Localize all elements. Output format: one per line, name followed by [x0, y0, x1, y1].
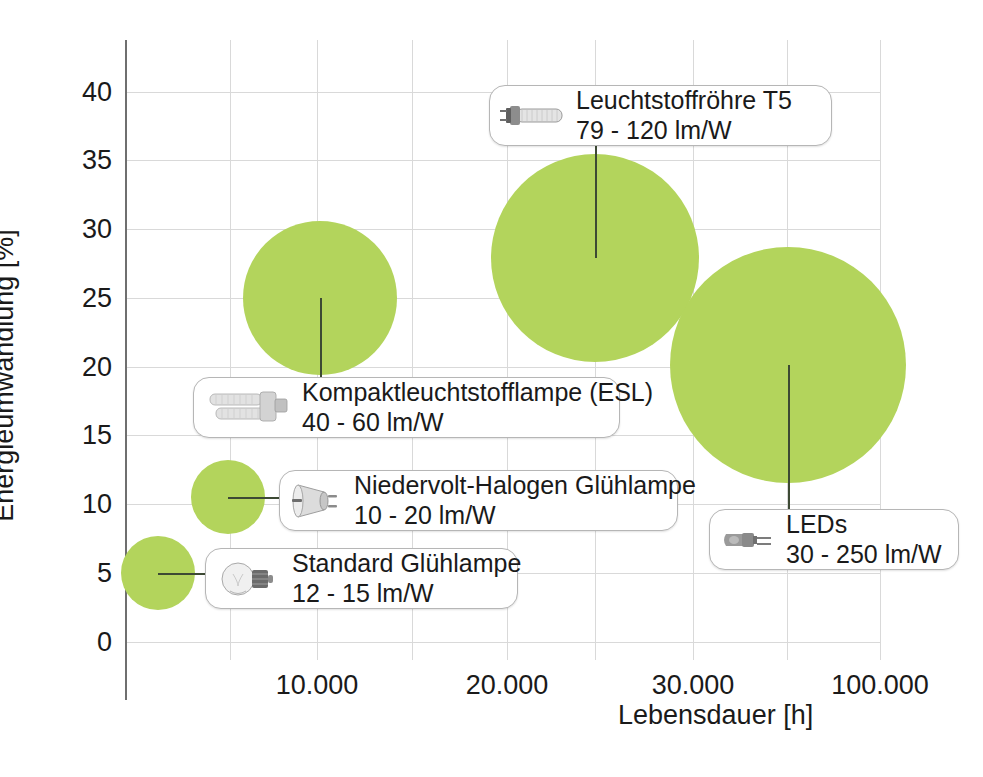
- callout-title: LEDs: [786, 510, 942, 540]
- x-tick-label: 30.000: [652, 670, 735, 701]
- callout-title: Leuchtstoffröhre T5: [576, 86, 792, 116]
- callout-title: Kompaktleuchtstofflampe (ESL): [302, 378, 653, 408]
- leader-line-standard: [158, 573, 206, 575]
- leader-line-esl: [320, 298, 322, 384]
- callout-text: LEDs 30 - 250 lm/W: [786, 510, 942, 569]
- x-tick-label: 20.000: [466, 670, 549, 701]
- callout-kompaktleuchtstofflampe[interactable]: Kompaktleuchtstofflampe (ESL) 40 - 60 lm…: [193, 377, 620, 438]
- callout-leuchtstoffroehre-t5[interactable]: Leuchtstoffröhre T5 79 - 120 lm/W: [489, 85, 832, 146]
- callout-standard-gluehlampe[interactable]: Standard Glühlampe 12 - 15 lm/W: [205, 548, 518, 609]
- gridline-horizontal: [126, 642, 880, 643]
- callout-title: Niedervolt-Halogen Glühlampe: [354, 471, 696, 501]
- halogen-reflector-icon: [290, 479, 344, 523]
- callout-value: 40 - 60 lm/W: [302, 408, 653, 438]
- compact-fluorescent-icon: [204, 386, 292, 430]
- x-axis-title: Lebensdauer [h]: [618, 700, 813, 731]
- x-tick-label: 100.000: [831, 670, 929, 701]
- incandescent-bulb-icon: [216, 557, 282, 601]
- callout-text: Leuchtstoffröhre T5 79 - 120 lm/W: [576, 86, 792, 145]
- x-tick-label: 10.000: [276, 670, 359, 701]
- y-axis-title: Energieumwandlung [%]: [0, 166, 20, 586]
- bubble-chart-figure: 40 35 30 25 20 15 10 5 0 10.000 20.000 3…: [0, 0, 983, 777]
- y-axis-line: [125, 40, 127, 700]
- callout-value: 10 - 20 lm/W: [354, 501, 696, 531]
- callout-text: Standard Glühlampe 12 - 15 lm/W: [292, 549, 521, 608]
- callout-value: 12 - 15 lm/W: [292, 579, 521, 609]
- fluorescent-tube-icon: [500, 99, 566, 133]
- callout-niedervolt-halogen[interactable]: Niedervolt-Halogen Glühlampe 10 - 20 lm/…: [279, 470, 678, 531]
- callout-text: Niedervolt-Halogen Glühlampe 10 - 20 lm/…: [354, 471, 696, 530]
- callout-leds[interactable]: LEDs 30 - 250 lm/W: [709, 509, 959, 570]
- callout-title: Standard Glühlampe: [292, 549, 521, 579]
- y-tick-label: 0: [2, 627, 112, 658]
- led-icon: [720, 524, 776, 556]
- callout-value: 79 - 120 lm/W: [576, 116, 792, 146]
- callout-text: Kompaktleuchtstofflampe (ESL) 40 - 60 lm…: [302, 378, 653, 437]
- gridline-horizontal: [126, 160, 880, 161]
- leader-line-led: [788, 365, 790, 520]
- leader-line-tube: [595, 130, 597, 258]
- y-tick-label: 40: [2, 77, 112, 108]
- callout-value: 30 - 250 lm/W: [786, 540, 942, 570]
